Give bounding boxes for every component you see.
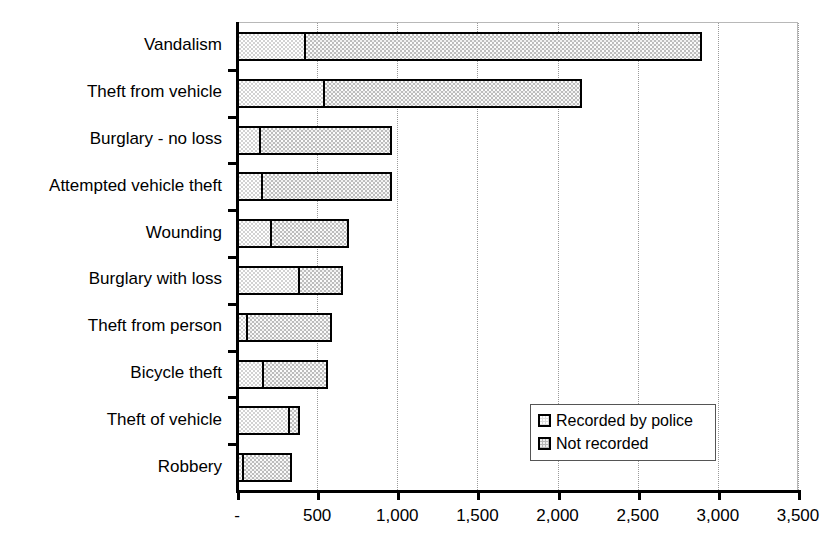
bar-segment-recorded [237, 126, 261, 155]
category-label: Bicycle theft [0, 363, 222, 382]
x-axis-tick-label: 1,500 [437, 506, 517, 526]
y-axis-tick [228, 396, 237, 399]
category-label: Burglary with loss [0, 269, 222, 288]
legend-swatch-not-recorded-icon [538, 437, 551, 450]
bar-chart: VandalismTheft from vehicleBurglary - no… [0, 0, 835, 556]
x-axis-tick [397, 490, 400, 500]
bar-group [237, 79, 798, 108]
x-axis-tick-label: - [197, 506, 277, 526]
legend: Recorded by police Not recorded [530, 404, 716, 461]
x-axis-tick-label: 500 [277, 506, 357, 526]
bar-segment-not-recorded [259, 126, 392, 155]
bar-group [237, 172, 798, 201]
category-label: Theft of vehicle [0, 410, 222, 429]
x-axis-tick-label: 2,000 [518, 506, 598, 526]
bar-segment-recorded [237, 32, 306, 61]
bar-segment-not-recorded [261, 172, 391, 201]
bar-group [237, 313, 798, 342]
bar-group [237, 266, 798, 295]
category-label: Burglary - no loss [0, 129, 222, 148]
category-label: Vandalism [0, 35, 222, 54]
y-axis-tick [228, 69, 237, 72]
bar-group [237, 360, 798, 389]
legend-item-recorded: Recorded by police [538, 409, 709, 432]
legend-item-not-recorded: Not recorded [538, 432, 709, 455]
bar-segment-not-recorded [270, 219, 349, 248]
bar-segment-recorded [237, 406, 290, 435]
y-axis-tick [228, 350, 237, 353]
bar-segment-not-recorded [298, 266, 343, 295]
x-axis-tick-label: 3,000 [678, 506, 758, 526]
bar-segment-recorded [237, 79, 325, 108]
y-axis-tick [228, 303, 237, 306]
x-axis-tick [317, 490, 320, 500]
bar-segment-recorded [237, 266, 300, 295]
x-axis-tick-label: 1,000 [357, 506, 437, 526]
y-axis-tick [228, 256, 237, 259]
bar-segment-not-recorded [246, 313, 331, 342]
y-axis-tick [228, 116, 237, 119]
x-axis-tick-label: 3,500 [758, 506, 835, 526]
x-axis-tick [638, 490, 641, 500]
x-axis-line [237, 490, 798, 493]
bar-group [237, 32, 798, 61]
category-label: Theft from person [0, 316, 222, 335]
bar-segment-not-recorded [262, 360, 327, 389]
bar-segment-recorded [237, 219, 272, 248]
category-axis-labels: VandalismTheft from vehicleBurglary - no… [0, 22, 230, 490]
legend-swatch-recorded-icon [538, 414, 551, 427]
bar-group [237, 126, 798, 155]
bar-segment-not-recorded [323, 79, 581, 108]
legend-label-recorded: Recorded by police [556, 412, 693, 430]
x-axis-tick [477, 490, 480, 500]
bar-segment-recorded [237, 360, 264, 389]
gridline [798, 23, 799, 490]
x-axis-tick-label: 2,500 [598, 506, 678, 526]
category-label: Wounding [0, 223, 222, 242]
bar-segment-not-recorded [288, 406, 300, 435]
x-axis-tick [798, 490, 801, 500]
x-axis-tick [718, 490, 721, 500]
category-label: Robbery [0, 457, 222, 476]
legend-label-not-recorded: Not recorded [556, 435, 649, 453]
bar-group [237, 219, 798, 248]
bar-segment-not-recorded [242, 453, 292, 482]
y-axis-tick [228, 209, 237, 212]
category-label: Theft from vehicle [0, 82, 222, 101]
y-axis-tick [228, 443, 237, 446]
y-axis-tick [228, 162, 237, 165]
bar-segment-recorded [237, 172, 263, 201]
bar-segment-not-recorded [304, 32, 702, 61]
category-label: Attempted vehicle theft [0, 176, 222, 195]
x-axis-tick [558, 490, 561, 500]
x-axis-tick [237, 490, 240, 500]
